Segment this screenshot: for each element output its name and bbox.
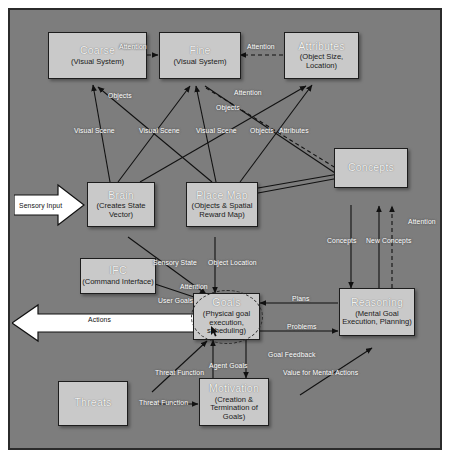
edge-label-attention-attr-fine: Attention — [247, 43, 275, 50]
node-attributes[interactable]: Attributes (Object Size, Location) — [284, 32, 359, 79]
edge-label-sensory-state: Sensory State — [153, 259, 197, 266]
node-motivation-title: Motivation — [209, 383, 259, 395]
sensory-input-label: Sensory Input — [19, 202, 62, 209]
node-motivation[interactable]: Motivation (Creation & Termination of Go… — [199, 378, 269, 426]
edge-label-agent-goals: Agent Goals — [209, 362, 248, 369]
node-fine-title: Fine — [189, 45, 210, 57]
node-attributes-sub: (Object Size, Location) — [300, 53, 343, 70]
edge-label-object-location: Object Location — [208, 259, 257, 266]
node-brain[interactable]: Brain (Creates State Vector) — [87, 182, 155, 227]
edge-label-visual-scene-3: Visual Scene — [196, 127, 237, 134]
edge-label-plans: Plans — [292, 295, 310, 302]
edge-label-attention-ifc: Attention — [180, 283, 208, 290]
edge-label-new-concepts: New Concepts — [366, 237, 411, 244]
node-fine[interactable]: Fine (Visual System) — [159, 32, 241, 79]
node-coarse-sub: (Visual System) — [71, 58, 124, 67]
edge-label-attributes-right: Attributes — [279, 127, 309, 134]
node-reasoning-sub: (Mental Goal Execution, Planning) — [342, 310, 412, 327]
node-attributes-title: Attributes — [298, 41, 344, 53]
edge-label-objects-top: Objects — [108, 92, 132, 99]
edge-label-threat-function-1: Threat Function — [155, 369, 204, 376]
actions-arrow — [12, 303, 212, 343]
node-threats[interactable]: Threats — [58, 381, 128, 426]
edge-label-goal-feedback: Goal Feedback — [268, 351, 315, 358]
node-brain-sub: (Creates State Vector) — [97, 202, 146, 219]
node-coarse[interactable]: Coarse (Visual System) — [48, 32, 147, 79]
edge-label-threat-function-2: Threat Function — [139, 399, 188, 406]
node-motivation-sub: (Creation & Termination of Goals) — [210, 396, 258, 422]
edge-label-attention-concepts: Attention — [408, 218, 436, 225]
diagram-canvas: Sensory Input Actions Coarse (Visual Sys… — [0, 0, 454, 465]
edge-label-objects-right: Objects — [250, 127, 274, 134]
node-concepts-title: Concepts — [348, 162, 394, 174]
node-goals-sub: (Physical goal execution, scheduling) — [203, 310, 250, 336]
node-brain-title: Brain — [108, 190, 134, 202]
node-goals[interactable]: Goals (Physical goal execution, scheduli… — [193, 293, 260, 340]
edge-label-objects-mid: Objects — [216, 104, 240, 111]
node-fine-sub: (Visual System) — [173, 58, 226, 67]
actions-label: Actions — [88, 316, 111, 323]
edge-label-user-goals: User Goals — [158, 297, 193, 304]
mouse-cursor-icon — [211, 326, 221, 338]
node-reasoning-title: Reasoning — [351, 297, 403, 309]
node-concepts[interactable]: Concepts — [334, 148, 408, 188]
node-ifc-title: IFC — [109, 265, 127, 277]
node-ifc[interactable]: IFC (Command Interface) — [80, 258, 156, 294]
edge-label-attention-mid: Attention — [234, 89, 262, 96]
node-place-map-title: Place Map — [196, 190, 247, 202]
edge-label-visual-scene-1: Visual Scene — [74, 127, 115, 134]
node-reasoning[interactable]: Reasoning (Mental Goal Execution, Planni… — [339, 288, 415, 336]
edge-label-attention-coarse-fine: Attention — [119, 43, 147, 50]
edge-label-value-mental-actions: Value for Mental Actions — [283, 369, 358, 376]
node-place-map[interactable]: Place Map (Objects & Spatial Reward Map) — [186, 182, 258, 227]
node-coarse-title: Coarse — [80, 45, 115, 57]
node-threats-title: Threats — [75, 397, 112, 409]
edge-label-visual-scene-2: Visual Scene — [139, 127, 180, 134]
node-goals-title: Goals — [212, 297, 240, 309]
edge-label-problems: Problems — [287, 323, 317, 330]
node-place-map-sub: (Objects & Spatial Reward Map) — [192, 202, 253, 219]
edge-label-concepts-down: Concepts — [327, 237, 357, 244]
node-ifc-sub: (Command Interface) — [82, 278, 154, 287]
